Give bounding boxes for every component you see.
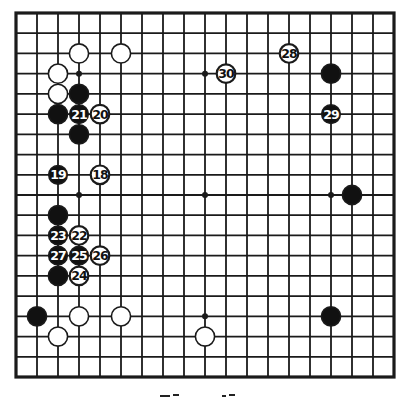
white-stone	[69, 44, 88, 63]
move-number: 22	[71, 228, 87, 243]
move-number: 30	[218, 66, 235, 81]
star-point-icon	[328, 192, 334, 198]
caption-glyph-fragment	[173, 394, 179, 396]
black-stone-icon	[48, 266, 67, 285]
black-stone-icon	[48, 206, 67, 225]
black-stone	[69, 125, 88, 144]
black-stone-29: 29	[322, 105, 341, 124]
move-number: 21	[71, 107, 87, 122]
black-stone	[69, 84, 88, 103]
move-number: 24	[71, 268, 88, 283]
black-stone-25: 25	[70, 246, 89, 265]
move-number: 19	[50, 167, 66, 182]
black-stone-icon	[69, 125, 88, 144]
white-stone	[111, 44, 130, 63]
move-number: 28	[281, 46, 297, 61]
white-stone-28: 28	[280, 44, 299, 63]
white-stone-30: 30	[217, 64, 236, 83]
black-stone-23: 23	[49, 226, 68, 245]
go-board: 21201918232227252624283029	[0, 0, 401, 398]
white-stone-icon	[195, 327, 214, 346]
white-stone-icon	[111, 44, 130, 63]
white-stone-icon	[69, 307, 88, 326]
black-stone-19: 19	[49, 165, 68, 184]
black-stone	[27, 307, 46, 326]
star-point-icon	[76, 71, 82, 77]
white-stone-icon	[48, 327, 67, 346]
move-number: 26	[92, 248, 109, 263]
white-stone	[48, 64, 67, 83]
white-stone-icon	[48, 84, 67, 103]
move-number: 27	[50, 248, 66, 263]
move-number: 25	[71, 248, 87, 263]
black-stone	[48, 266, 67, 285]
black-stone-icon	[48, 105, 67, 124]
white-stone-24: 24	[70, 267, 89, 286]
black-stone	[321, 64, 340, 83]
black-stone-icon	[342, 185, 361, 204]
caption-glyph-fragment	[229, 394, 235, 396]
white-stone	[111, 307, 130, 326]
star-point-icon	[202, 192, 208, 198]
black-stone-icon	[321, 64, 340, 83]
move-number: 20	[92, 107, 109, 122]
white-stone	[48, 327, 67, 346]
white-stone	[69, 307, 88, 326]
caption-glyph-fragment	[222, 395, 226, 397]
black-stone	[48, 206, 67, 225]
caption-glyph-fragment	[160, 395, 170, 397]
black-stone-21: 21	[70, 105, 89, 124]
white-stone-icon	[111, 307, 130, 326]
black-stone-icon	[321, 307, 340, 326]
move-number: 23	[50, 228, 66, 243]
white-stone-icon	[69, 44, 88, 63]
white-stone	[48, 84, 67, 103]
star-point-icon	[202, 313, 208, 319]
black-stone-icon	[69, 84, 88, 103]
black-stone	[48, 105, 67, 124]
black-stone	[342, 185, 361, 204]
black-stone-icon	[27, 307, 46, 326]
white-stone-icon	[48, 64, 67, 83]
white-stone-22: 22	[70, 226, 89, 245]
white-stone-20: 20	[91, 105, 110, 124]
white-stone-26: 26	[91, 246, 110, 265]
move-number: 18	[92, 167, 108, 182]
white-stone	[195, 327, 214, 346]
star-point-icon	[76, 192, 82, 198]
black-stone-27: 27	[49, 246, 68, 265]
move-number: 29	[323, 107, 339, 122]
star-point-icon	[202, 71, 208, 77]
black-stone	[321, 307, 340, 326]
white-stone-18: 18	[91, 165, 110, 184]
